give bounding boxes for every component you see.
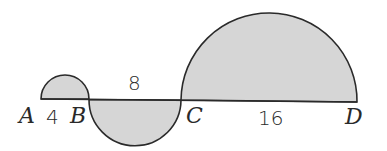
semicircle-ab [41,75,89,99]
length-label-bc: 8 [128,71,141,95]
point-label-a: A [17,103,35,128]
length-label-ab: 4 [46,105,59,129]
semicircle-cd [181,13,357,102]
point-label-b: B [69,103,86,128]
semicircle-diagram: A B C D 4 8 16 [0,0,387,151]
semicircle-bc [89,100,181,146]
point-label-c: C [186,103,203,128]
length-label-cd: 16 [258,106,283,130]
point-label-d: D [344,104,363,129]
